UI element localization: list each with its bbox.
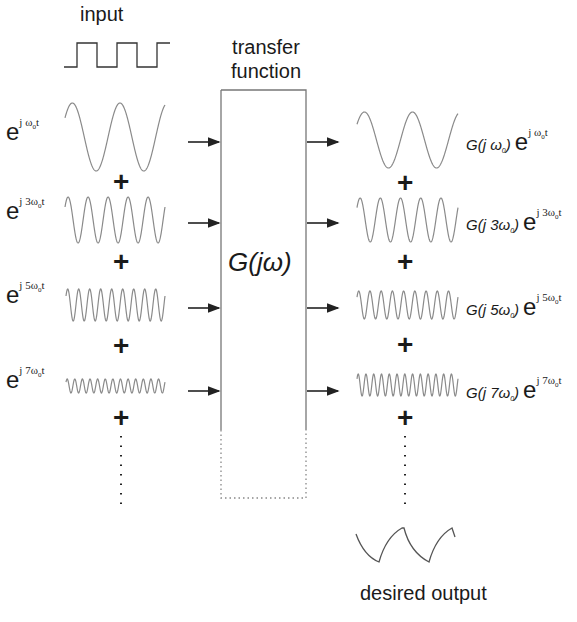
transfer-function-label: G(jω): [228, 247, 292, 278]
input-term-3: ej 3ω0t: [6, 197, 44, 225]
input-arrows: [188, 142, 219, 391]
square-wave-input: [64, 43, 170, 67]
plus-sign: +: [113, 404, 129, 432]
plus-sign: +: [113, 168, 129, 196]
output-wave-1: [357, 112, 458, 168]
transfer-box-dotted-extension: [221, 430, 306, 498]
output-wave-5: [357, 291, 458, 319]
plus-sign: +: [397, 169, 413, 197]
input-term-7: ej 7ω0t: [6, 366, 44, 394]
input-wave-3: [65, 197, 165, 243]
plus-sign: +: [397, 248, 413, 276]
output-term-5: G(j 5ω0) ej 5ω0t: [466, 293, 562, 321]
input-term-5: ej 5ω0t: [6, 281, 44, 309]
desired-output-label: desired output: [360, 582, 487, 605]
input-wave-5: [66, 289, 165, 321]
output-wave-7: [357, 374, 458, 396]
input-term-1: ej ω0t: [6, 118, 39, 146]
plus-sign: +: [113, 248, 129, 276]
output-term-3: G(j 3ω0) ej 3ω0t: [466, 208, 562, 236]
output-term-1: G(j ω0) ej ω0t: [466, 128, 548, 156]
input-wave-7: [66, 379, 165, 393]
desired-output-wave: [356, 528, 455, 562]
plus-sign: +: [397, 404, 413, 432]
input-wave-1: [65, 103, 165, 171]
plus-sign: +: [113, 332, 129, 360]
output-arrows: [307, 142, 338, 391]
output-term-7: G(j 7ω0) ej 7ω0t: [466, 376, 562, 404]
output-wave-3: [357, 198, 458, 242]
plus-sign: +: [397, 331, 413, 359]
